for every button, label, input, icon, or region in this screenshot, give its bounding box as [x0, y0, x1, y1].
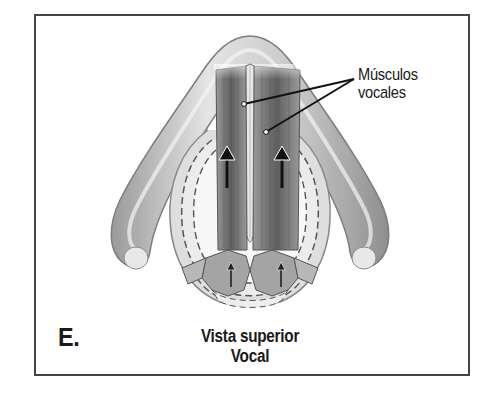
- caption-line1: Vista superior: [165, 326, 335, 346]
- caption-line2: Vocal: [165, 346, 335, 366]
- vocal-muscles-label-line1: Músculos: [358, 66, 418, 84]
- figure-caption: Vista superior Vocal: [165, 326, 335, 366]
- panel-letter: E.: [58, 322, 80, 353]
- vocal-muscles-label-line2: vocales: [358, 84, 418, 102]
- vocal-muscles-label: Músculos vocales: [358, 66, 418, 102]
